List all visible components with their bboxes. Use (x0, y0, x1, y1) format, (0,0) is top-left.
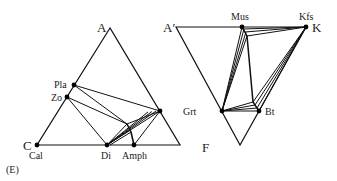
apex-label-a: A (97, 20, 107, 35)
point-bt (257, 109, 262, 114)
left-tie-lines (67, 85, 160, 145)
point-pla (72, 83, 77, 88)
label-bt: Bt (265, 106, 275, 117)
label-zo: Zo (51, 92, 62, 103)
phase-diagram-figure: A C Pla Zo Cal Di Amph (E) (0, 0, 337, 181)
label-mus: Mus (231, 11, 249, 22)
apex-label-f: F (202, 140, 209, 155)
panel-label: (E) (6, 164, 19, 176)
label-pla: Pla (54, 79, 67, 90)
left-ternary: A C Pla Zo Cal Di Amph (E) (6, 20, 180, 176)
apex-label-k: K (312, 20, 322, 35)
right-ternary: A′ K F Mus Kfs Grt Bt (163, 11, 322, 155)
point-di (105, 143, 110, 148)
right-triangle-outline (176, 27, 306, 145)
label-di: Di (101, 150, 111, 161)
point-grt (220, 109, 225, 114)
point-zo (65, 95, 70, 100)
label-grt: Grt (183, 106, 197, 117)
point-left-right (158, 109, 163, 114)
label-amph: Amph (122, 150, 147, 161)
label-kfs: Kfs (299, 11, 314, 22)
point-cal (35, 143, 40, 148)
point-kfs (304, 25, 309, 30)
label-cal: Cal (29, 150, 43, 161)
apex-label-a-prime: A′ (163, 20, 175, 35)
point-amph (132, 143, 137, 148)
point-mus (240, 25, 245, 30)
right-tie-lines (222, 27, 306, 111)
